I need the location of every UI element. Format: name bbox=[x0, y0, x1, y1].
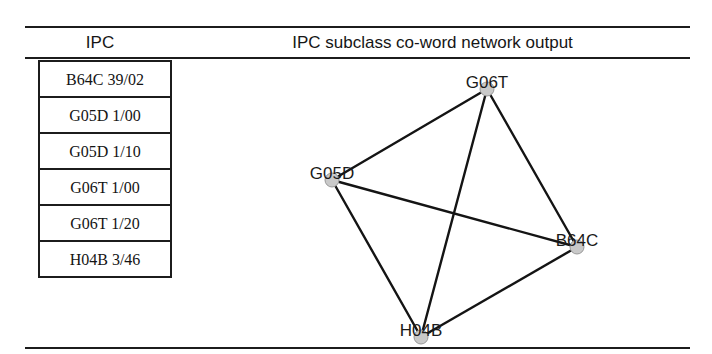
network-node[interactable] bbox=[414, 330, 428, 344]
table-top-rule bbox=[25, 26, 690, 28]
ipc-code-cell: G05D 1/10 bbox=[40, 134, 170, 170]
ipc-code-cell: G06T 1/00 bbox=[40, 170, 170, 206]
network-edge-layer bbox=[332, 89, 577, 337]
network-edge bbox=[487, 89, 577, 247]
figure-page: IPC IPC subclass co-word network output … bbox=[0, 0, 712, 354]
network-svg bbox=[190, 58, 690, 347]
network-edge bbox=[332, 180, 577, 247]
ipc-code-cell: G06T 1/20 bbox=[40, 206, 170, 242]
ipc-code-cell: G05D 1/00 bbox=[40, 98, 170, 134]
network-edge bbox=[332, 180, 421, 337]
ipc-code-cell: H04B 3/46 bbox=[40, 242, 170, 278]
network-node[interactable] bbox=[480, 82, 494, 96]
ipc-code-cell: B64C 39/02 bbox=[40, 62, 170, 98]
network-edge bbox=[332, 89, 487, 180]
network-node[interactable] bbox=[325, 173, 339, 187]
ipc-code-table: B64C 39/02G05D 1/00G05D 1/10G06T 1/00G06… bbox=[38, 60, 172, 278]
network-node[interactable] bbox=[570, 240, 584, 254]
table-header-row: IPC IPC subclass co-word network output bbox=[25, 29, 690, 56]
co-word-network-graph: G06TG05DB64CH04B bbox=[190, 58, 690, 347]
column-header-network-output: IPC subclass co-word network output bbox=[175, 29, 690, 56]
table-bottom-rule bbox=[25, 347, 690, 349]
column-header-ipc: IPC bbox=[25, 29, 175, 56]
network-edge bbox=[421, 247, 577, 337]
